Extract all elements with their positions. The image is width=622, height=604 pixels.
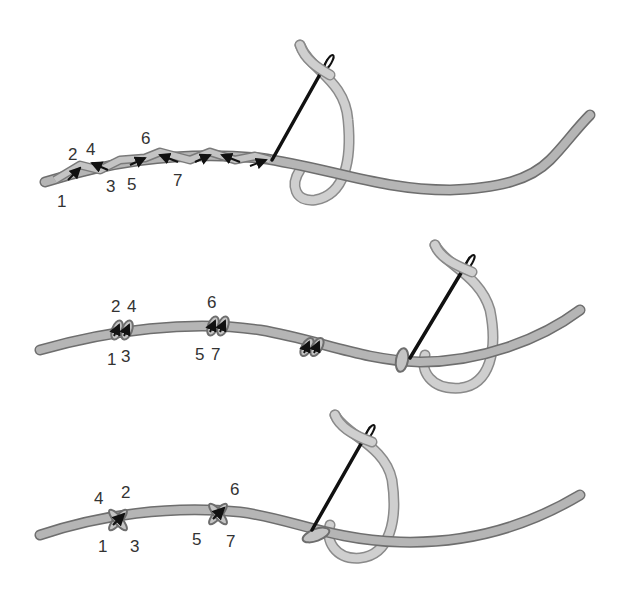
step-label: 6 [230,480,239,499]
step-label: 6 [207,293,216,312]
stitch-group [205,315,231,337]
step-label: 2 [111,297,120,316]
step-label: 1 [98,537,107,556]
step-label: 3 [121,347,130,366]
step-label: 1 [57,192,66,211]
panel-3: 4 2 1 3 6 5 7 [40,415,580,558]
knot [394,347,410,373]
step-label: 7 [173,171,182,190]
step-label: 7 [226,532,235,551]
step-label: 2 [121,483,130,502]
step-label: 7 [211,345,220,364]
step-label: 5 [195,345,204,364]
step-label: 6 [141,129,150,148]
step-label: 4 [86,140,95,159]
stitch-diagram: 1 2 4 3 5 6 7 [0,0,622,604]
step-label: 3 [106,177,115,196]
step-label: 3 [130,537,139,556]
step-label: 4 [94,489,103,508]
step-label: 2 [68,145,77,164]
panel-2: 2 4 1 3 6 5 7 [40,245,580,388]
step-label: 1 [107,350,116,369]
step-label: 5 [192,530,201,549]
step-label: 4 [127,297,136,316]
step-label: 5 [127,175,136,194]
panel-1: 1 2 4 3 5 6 7 [45,45,590,211]
stitch-group [109,319,135,341]
